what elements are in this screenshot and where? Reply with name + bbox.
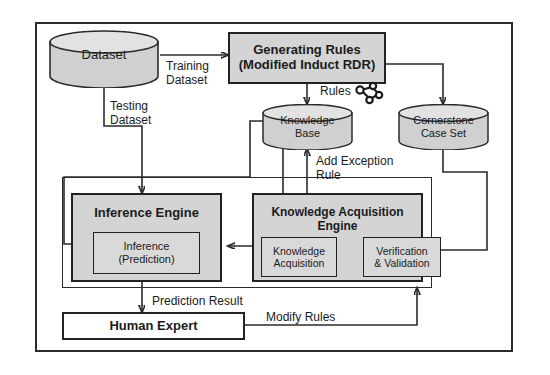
- cornerstone-line2: Case Set: [397, 127, 490, 140]
- cornerstone-line1: Cornerstone: [397, 114, 490, 127]
- generating-rules-box: Generating Rules (Modified Induct RDR): [228, 32, 386, 84]
- testing-dataset-label: Testing Dataset: [110, 99, 151, 127]
- generating-rules-line1: Generating Rules: [253, 43, 361, 58]
- generating-rules-line2: (Modified Induct RDR): [239, 58, 375, 73]
- rules-network-icon: [353, 81, 385, 109]
- inference-prediction-line1: Inference: [124, 240, 170, 253]
- knowledge-acquisition-line2: Acquisition: [274, 257, 325, 269]
- inference-prediction-box: Inference (Prediction): [93, 232, 200, 274]
- training-dataset-label: Training Dataset: [166, 59, 209, 87]
- knowledge-acquisition-line1: Knowledge: [273, 245, 325, 257]
- human-expert-box: Human Expert: [62, 312, 245, 340]
- add-exception-rule-line1: Add Exception: [316, 154, 393, 168]
- testing-dataset-line2: Dataset: [110, 113, 151, 127]
- testing-dataset-line1: Testing: [110, 99, 151, 113]
- training-dataset-line1: Training: [166, 59, 209, 73]
- training-dataset-line2: Dataset: [166, 73, 209, 87]
- inference-engine-label: Inference Engine: [94, 206, 199, 221]
- dataset-label: Dataset: [48, 47, 160, 62]
- prediction-result-label: Prediction Result: [152, 294, 243, 308]
- knowledge-acquisition-box: Knowledge Acquisition: [261, 237, 337, 277]
- verification-line1: Verification: [376, 245, 427, 257]
- edge-generating-rules-to-cornerstone: [386, 64, 443, 104]
- rules-edge-label: Rules: [320, 84, 351, 98]
- knowledge-base-label: Knowledge Base: [261, 114, 354, 140]
- human-expert-label: Human Expert: [109, 319, 197, 334]
- add-exception-rule-label: Add Exception Rule: [316, 154, 393, 182]
- modify-rules-label: Modify Rules: [266, 310, 335, 324]
- ka-engine-label: Knowledge Acquisition Engine: [254, 206, 421, 234]
- verification-validation-box: Verification & Validation: [363, 237, 441, 277]
- add-exception-rule-line2: Rule: [316, 168, 393, 182]
- cornerstone-case-set-label: Cornerstone Case Set: [397, 114, 490, 140]
- verification-line2: & Validation: [374, 257, 429, 269]
- knowledge-base-line1: Knowledge: [261, 114, 354, 127]
- inference-prediction-line2: (Prediction): [118, 253, 174, 266]
- knowledge-base-line2: Base: [261, 127, 354, 140]
- rdr-architecture-diagram: Dataset Generating Rules (Modified Induc…: [0, 0, 550, 375]
